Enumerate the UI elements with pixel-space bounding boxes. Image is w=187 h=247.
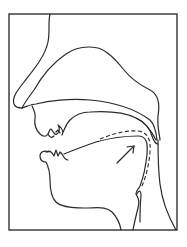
- lower-teeth: [46, 150, 68, 160]
- nasal-cavity-outline: [22, 47, 160, 140]
- movement-arrow: [117, 146, 134, 163]
- pharynx-back-wall: [158, 140, 176, 230]
- vocal-tract-diagram: [0, 0, 187, 247]
- upper-lip-and-teeth: [32, 106, 156, 140]
- lower-lip-and-teeth: [40, 151, 121, 230]
- tongue: [64, 136, 147, 230]
- hard-palate-upper: [22, 99, 157, 140]
